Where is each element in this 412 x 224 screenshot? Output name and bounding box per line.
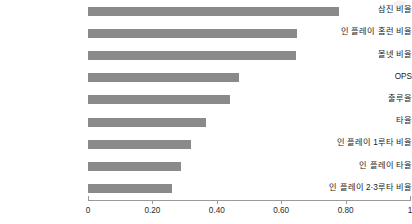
bar-row bbox=[88, 0, 339, 22]
x-axis-tick-label: 1 bbox=[408, 207, 412, 215]
bar-row bbox=[88, 44, 296, 66]
bar bbox=[88, 51, 296, 60]
x-axis-tick-label: 0.80 bbox=[338, 207, 354, 215]
bar bbox=[88, 118, 206, 127]
bar-row bbox=[88, 178, 172, 200]
x-axis-tick bbox=[217, 200, 218, 204]
x-axis-tick-label: 0.40 bbox=[209, 207, 225, 215]
bar-row bbox=[88, 67, 239, 89]
bar bbox=[88, 184, 172, 193]
bar bbox=[88, 7, 339, 16]
x-axis-tick bbox=[88, 196, 89, 201]
x-axis-tick bbox=[152, 200, 153, 204]
bar bbox=[88, 162, 181, 171]
bar-row bbox=[88, 89, 230, 111]
x-axis-tick bbox=[346, 200, 347, 204]
bar bbox=[88, 73, 239, 82]
plot-area bbox=[88, 0, 410, 200]
x-axis-tick bbox=[281, 200, 282, 204]
bar bbox=[88, 29, 297, 38]
bar bbox=[88, 140, 191, 149]
bar-row bbox=[88, 22, 297, 44]
horizontal-bar-chart: 삼진 비율인 플레이 홈런 비율볼넷 비율OPS출루율타율인 플레이 1루타 비… bbox=[0, 0, 412, 224]
bar-row bbox=[88, 155, 181, 177]
x-axis-line bbox=[88, 200, 410, 201]
bar-row bbox=[88, 133, 191, 155]
x-axis-tick-label: 0.60 bbox=[273, 207, 289, 215]
x-axis-tick-label: 0.20 bbox=[144, 207, 160, 215]
x-axis-tick-label: 0 bbox=[86, 207, 91, 215]
bar-row bbox=[88, 111, 206, 133]
bar bbox=[88, 95, 230, 104]
x-axis-tick bbox=[410, 196, 411, 201]
